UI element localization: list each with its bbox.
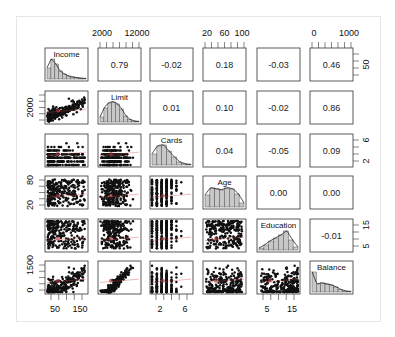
variable-label: Income	[53, 50, 80, 59]
correlation-value: -0.02	[268, 103, 289, 113]
panel-education-age	[203, 219, 246, 252]
panel-limit-cards: 0.01	[150, 91, 193, 124]
panel-education-limit	[98, 219, 141, 252]
top-axis-tick-label: 100	[234, 28, 249, 38]
variable-label: Cards	[161, 136, 182, 145]
correlation-value: -0.01	[321, 231, 342, 241]
panel-limit-balance: 0.86	[310, 91, 353, 124]
variable-label: Age	[217, 178, 232, 187]
panel-cards-income	[45, 134, 88, 167]
left-axis-tick-label: 80	[25, 175, 35, 185]
correlation-value: -0.05	[268, 146, 289, 156]
correlation-value: 0.18	[216, 60, 234, 70]
panel-balance-income	[45, 261, 88, 294]
panel-age-cards	[150, 176, 193, 209]
top-axis-tick-label: 2000	[92, 28, 112, 38]
panel-age-balance: 0.00	[310, 176, 353, 209]
correlation-value: 0.46	[323, 60, 341, 70]
bottom-axis-tick-label: 6	[182, 304, 187, 314]
right-axis-tick-label: 2	[361, 158, 371, 163]
top-axis-tick-label: 0	[311, 28, 316, 38]
panel-income-balance: 0.46	[310, 48, 353, 81]
panel-income-cards: -0.02	[150, 48, 193, 81]
correlation-value: 0.86	[323, 103, 341, 113]
panel-education-education: Education	[257, 219, 300, 252]
bottom-axis-tick-label: 5	[264, 304, 269, 314]
bottom-axis-tick-label: 50	[50, 304, 60, 314]
pairs-plot: Income0.79-0.020.18-0.030.46Limit0.010.1…	[0, 0, 395, 337]
panel-income-limit: 0.79	[98, 48, 141, 81]
bottom-axis-tick-label: 15	[287, 304, 297, 314]
right-axis-tick-label: 6	[361, 137, 371, 142]
panel-education-balance: -0.01	[310, 219, 353, 252]
panel-limit-income	[45, 91, 88, 124]
right-axis-tick-label: 50	[361, 59, 371, 69]
panel-cards-cards: Cards	[150, 134, 193, 167]
panel-income-income: Income	[45, 48, 88, 81]
panel-balance-age	[203, 261, 246, 294]
panel-education-income	[45, 219, 88, 252]
panel-cards-limit	[98, 134, 141, 167]
panel-income-education: -0.03	[257, 48, 300, 81]
left-axis-tick-label: 1500	[25, 255, 35, 275]
bottom-axis-tick-label: 2	[157, 304, 162, 314]
panel-balance-limit	[98, 261, 141, 294]
correlation-value: 0.00	[270, 188, 288, 198]
bottom-axis-tick-label: 150	[72, 304, 87, 314]
correlation-value: -0.03	[268, 60, 289, 70]
correlation-value: -0.02	[161, 60, 182, 70]
panel-education-cards	[150, 219, 193, 252]
variable-label: Limit	[111, 93, 129, 102]
correlation-value: 0.09	[323, 146, 341, 156]
left-axis-tick-label: 2000	[25, 97, 35, 117]
top-axis-tick-label: 60	[219, 28, 229, 38]
panel-age-income	[45, 176, 88, 209]
panel-limit-limit: Limit	[98, 91, 141, 124]
correlation-value: 0.79	[111, 60, 129, 70]
top-axis-tick-label: 1000	[339, 28, 359, 38]
panel-limit-education: -0.02	[257, 91, 300, 124]
right-axis-tick-label: 5	[361, 243, 371, 248]
panel-balance-education	[257, 261, 300, 294]
variable-label: Education	[261, 221, 297, 230]
left-axis-tick-label: 20	[25, 200, 35, 210]
panel-cards-education: -0.05	[257, 134, 300, 167]
panel-balance-balance: Balance	[310, 261, 353, 294]
top-axis-tick-label: 20	[202, 28, 212, 38]
correlation-value: 0.04	[216, 146, 234, 156]
variable-label: Balance	[317, 263, 346, 272]
left-axis-tick-label: 0	[25, 287, 35, 292]
panel-balance-cards	[150, 261, 193, 294]
panel-age-limit	[98, 176, 141, 209]
panel-age-age: Age	[203, 176, 246, 209]
right-axis-tick-label: 15	[361, 220, 371, 230]
panel-income-age: 0.18	[203, 48, 246, 81]
panel-cards-age: 0.04	[203, 134, 246, 167]
panel-cards-balance: 0.09	[310, 134, 353, 167]
correlation-value: 0.10	[216, 103, 234, 113]
caption	[22, 326, 322, 332]
correlation-value: 0.01	[163, 103, 181, 113]
panel-limit-age: 0.10	[203, 91, 246, 124]
panel-age-education: 0.00	[257, 176, 300, 209]
correlation-value: 0.00	[323, 188, 341, 198]
top-axis-tick-label: 12000	[124, 28, 149, 38]
